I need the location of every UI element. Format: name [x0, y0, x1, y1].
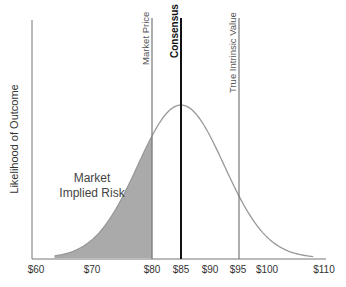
x-tick-60: $60	[28, 264, 45, 275]
annotation-line-1: Market	[74, 171, 111, 185]
chart: Market Price Consensus True Intrinsic Va…	[0, 0, 346, 287]
x-tick-85: $85	[173, 264, 190, 275]
x-tick-90: $90	[202, 264, 219, 275]
x-tick-95: $95	[230, 264, 247, 275]
x-tick-100: $100	[256, 264, 279, 275]
x-tick-70: $70	[84, 264, 101, 275]
x-tick-80: $80	[144, 264, 161, 275]
true-intrinsic-value-label: True Intrinsic Value	[227, 12, 238, 93]
x-tick-110: $110	[313, 264, 335, 275]
market-price-label: Market Price	[140, 12, 151, 65]
y-axis-label: Likelihood of Outcome	[8, 84, 20, 193]
annotation-line-2: Implied Risk	[59, 186, 125, 200]
consensus-label: Consensus	[169, 4, 180, 58]
